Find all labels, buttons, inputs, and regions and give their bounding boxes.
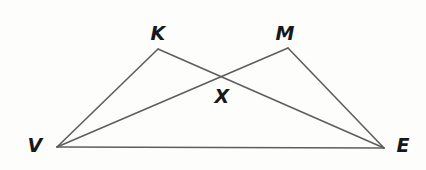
segment-VK — [57, 49, 158, 147]
vertex-label-m: M — [275, 24, 294, 43]
segment-ME — [288, 48, 384, 148]
vertex-label-x: X — [215, 87, 230, 106]
vertex-label-k: K — [151, 24, 166, 43]
segment-VE — [57, 147, 384, 148]
segment-KE — [158, 49, 384, 148]
diagram-canvas — [0, 0, 426, 170]
vertex-label-e: E — [396, 136, 409, 155]
vertex-label-v: V — [28, 136, 43, 155]
segment-VM — [57, 48, 288, 147]
geometry-figure: VKMXE — [0, 0, 426, 170]
